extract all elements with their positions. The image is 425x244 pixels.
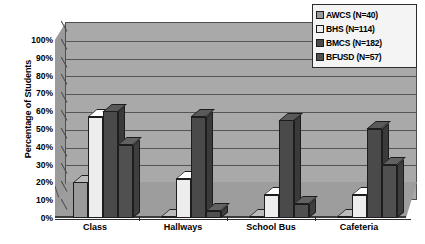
bar-bhs-class [88,117,103,218]
bar-bmcs-hallways [191,117,206,218]
bar-front-face [382,165,397,218]
bar-bhs-school-bus [264,195,279,218]
y-axis-tick-label: 0% [41,213,53,223]
bar-bfusd-school-bus [294,204,309,218]
bar-bmcs-school-bus [279,120,294,218]
bar-side-face [397,159,404,218]
legend-item: AWCS (N=40) [316,8,412,22]
x-axis-tick-mark [227,216,228,221]
x-axis-tick-mark [315,216,316,221]
legend-item-label: BHS (N=114) [326,24,375,34]
y-axis-tick-label: 50% [36,124,53,134]
bar-bmcs-cafeteria [367,129,382,218]
bar-front-face [206,211,221,218]
y-axis-tick-label: 90% [36,53,53,63]
bar-front-face [176,179,191,218]
bar-side-face [133,140,140,218]
bar-bfusd-cafeteria [382,165,397,218]
y-axis-tick-label: 100% [31,35,53,45]
y-axis-tick-label: 80% [36,71,53,81]
x-axis-tick-label: School Bus [246,222,296,232]
y-axis-tick-label: 30% [36,160,53,170]
bar-front-face [367,129,382,218]
bar-bhs-cafeteria [352,195,367,218]
x-axis-line [55,219,411,220]
bar-front-face [118,145,133,218]
bar-awcs-school-bus [249,216,264,218]
bar-front-face [294,204,309,218]
legend-swatch-icon [316,39,324,47]
legend-item-label: AWCS (N=40) [326,10,378,20]
bar-front-face [88,117,103,218]
y-axis-tick-label: 60% [36,106,53,116]
x-axis-tick-mark [139,216,140,221]
x-axis-tick-labels: ClassHallwaysSchool BusCafeteria [55,222,417,240]
bar-awcs-cafeteria [337,216,352,218]
x-axis-tick-label: Class [83,222,107,232]
bar-bfusd-class [118,145,133,218]
bar-awcs-class [73,182,88,218]
legend-swatch-icon [316,25,324,33]
y-axis-tick-label: 40% [36,142,53,152]
bar-bfusd-hallways [206,211,221,218]
bar-bmcs-class [103,111,118,218]
legend-swatch-icon [316,11,324,19]
bar-front-face [264,195,279,218]
legend-item-label: BMCS (N=182) [326,38,382,48]
bar-front-face [73,182,88,218]
y-axis-tick-label: 20% [36,177,53,187]
bar-front-face [279,120,294,218]
legend-item-label: BFUSD (N=57) [326,52,381,62]
bar-bhs-hallways [176,179,191,218]
legend-item: BHS (N=114) [316,22,412,36]
chart-legend: AWCS (N=40)BHS (N=114)BMCS (N=182)BFUSD … [312,4,417,68]
legend-item: BFUSD (N=57) [316,50,412,64]
y-axis-tick-label: 10% [36,195,53,205]
bar-awcs-hallways [161,216,176,218]
x-axis-tick-label: Cafeteria [340,222,379,232]
bar-front-face [191,117,206,218]
bar-front-face [352,195,367,218]
bar-front-face [103,111,118,218]
legend-swatch-icon [316,53,324,61]
chart-container: Percentage of Students 0%10%20%30%40%50%… [0,0,425,244]
bar-side-face [206,111,213,218]
legend-item: BMCS (N=182) [316,36,412,50]
y-axis-tick-labels: 0%10%20%30%40%50%60%70%80%90%100% [17,22,53,218]
x-axis-tick-label: Hallways [164,222,203,232]
y-axis-tick-label: 70% [36,88,53,98]
